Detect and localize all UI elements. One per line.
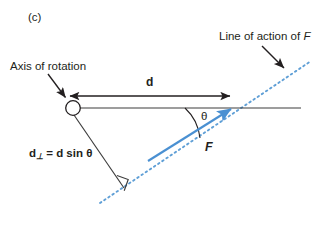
- line-of-action-pointer-arrow: [262, 46, 284, 68]
- line-of-action-label: Line of action of F: [219, 31, 310, 43]
- figure-container: (c) Axis of rotation Line of action of F…: [0, 0, 328, 233]
- pivot-circle-icon: [66, 101, 81, 116]
- force-vector-label: F: [205, 141, 213, 154]
- line-of-action-force-symbol: F: [303, 30, 310, 42]
- perpendicular-distance-label: d⊥ = d sin θ: [29, 148, 92, 161]
- theta-angle-label: θ: [201, 111, 207, 123]
- perp-distance-subscript: ⊥: [36, 152, 43, 161]
- force-vector-arrow: [148, 109, 231, 161]
- distance-d-label: d: [146, 76, 153, 88]
- line-of-action-dashed: [100, 61, 311, 203]
- axis-of-rotation-label: Axis of rotation: [10, 61, 86, 73]
- line-of-action-text: Line of action of: [219, 30, 303, 42]
- panel-label: (c): [28, 12, 41, 24]
- perp-distance-lead: d: [29, 147, 36, 159]
- axis-of-rotation-pointer-arrow: [48, 74, 66, 98]
- perp-distance-rest: = d sin θ: [43, 147, 92, 159]
